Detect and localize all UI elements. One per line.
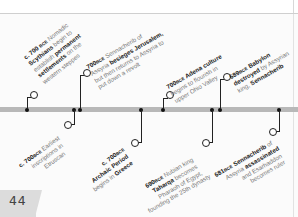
connector-line [279, 110, 280, 131]
event-label-etruscan: c. 700BCE Earliest inscriptions in Etrus… [17, 134, 70, 182]
event-node [269, 128, 277, 136]
connector-line [220, 79, 221, 109]
event-node [131, 139, 139, 147]
connector-line [74, 110, 75, 124]
event-label-babylon: 689BCE Babylon destroyed by Assyrian kin… [228, 43, 294, 95]
connector-line [212, 110, 213, 142]
connector-line [27, 97, 28, 109]
page-border [293, 0, 294, 13]
event-label-archaic-greece: c. 700BCE Archaic Period begins in Greec… [82, 145, 135, 192]
event-node [30, 91, 38, 99]
connector-line [80, 75, 81, 109]
page-number-tab-edge [35, 190, 42, 217]
event-node [64, 121, 72, 129]
page-gutter [293, 14, 294, 217]
connector-line [141, 110, 142, 142]
event-label-jerusalem: 700BCE Sennacherib of Assyria besieges J… [85, 23, 172, 91]
event-label-taharqa: 690BCE Nubian king Taharqa becomes Phara… [135, 153, 212, 215]
event-label-sennacherib-assassinated: 681BCE Sennacherib of Assyria assassinat… [213, 138, 288, 199]
page-number: 44 [9, 193, 27, 208]
previous-page-edge [0, 0, 298, 14]
event-node [202, 139, 210, 147]
timeline-bar [0, 107, 298, 112]
connector-line [163, 98, 164, 109]
